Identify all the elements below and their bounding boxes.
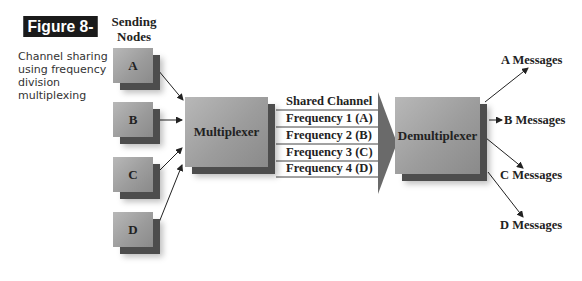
sending-node-c: C — [113, 157, 153, 192]
sending-node-b: B — [113, 102, 153, 137]
sending-node-a: A — [113, 48, 153, 83]
frequency-1-label: Frequency 1 (A) — [286, 111, 373, 126]
shared-channel-label: Shared Channel — [286, 94, 372, 109]
frequency-4-label: Frequency 4 (D) — [286, 161, 373, 176]
output-b-messages: B Messages — [504, 113, 565, 128]
sending-node-d: D — [113, 212, 153, 247]
frequency-3-label: Frequency 3 (C) — [286, 145, 373, 160]
demultiplexer-box: Demultiplexer — [395, 97, 480, 174]
output-d-messages: D Messages — [500, 218, 562, 233]
output-c-messages: C Messages — [500, 168, 562, 183]
multiplexer-box: Multiplexer — [185, 97, 268, 167]
output-a-messages: A Messages — [501, 53, 562, 68]
frequency-2-label: Frequency 2 (B) — [286, 128, 372, 143]
